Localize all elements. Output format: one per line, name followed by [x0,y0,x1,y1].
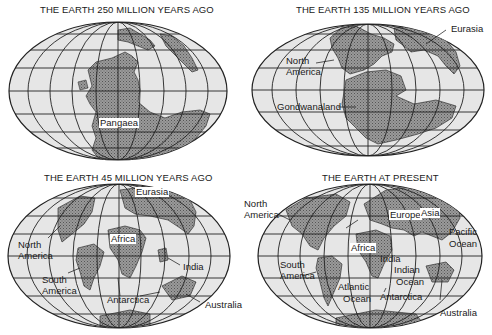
label-america: America [280,271,315,281]
label-eurasia: Eurasia [451,24,483,34]
map-panel-250-mya: THE EARTH 250 MILLION YEARS AGO [0,0,246,168]
label-america: America [18,251,53,261]
label-australia: Australia [205,300,242,310]
label-north: North [244,199,267,209]
label-atlantic: Atlantic [338,282,369,292]
label-europe: Europe [389,210,422,220]
map-panel-45-mya: THE EARTH 45 MILLION YEARS AGO [0,168,246,335]
label-ocean: Ocean [343,294,371,304]
label-america: America [286,67,321,77]
label-india: India [183,262,204,272]
label-eurasia: Eurasia [135,187,169,197]
label-gondwanaland: Gondwanaland [277,102,341,112]
label-north: North [18,240,41,250]
label-india: India [380,254,401,264]
label-south: South [280,260,305,270]
label-pacific: Pacific [449,227,477,237]
label-pangaea: Pangaea [99,118,139,128]
label-north: North [286,56,309,66]
map-panel-present: THE EARTH AT PRESENT [246,168,492,335]
map-panel-135-mya: THE EARTH 135 MILLION YEARS AGO [246,0,492,168]
label-south: South [42,275,67,285]
globe-map-250-mya [0,0,246,168]
label-america: America [42,286,77,296]
label-antarctica: Antarctica [107,295,149,305]
label-antarctica: Antarctica [380,292,422,302]
label-america: America [244,210,279,220]
label-ocean: Ocean [449,239,477,249]
label-indian: Indian [394,265,420,275]
label-africa: Africa [350,243,376,253]
label-ocean: Ocean [396,277,424,287]
label-asia: Asia [420,208,440,218]
label-africa: Africa [110,234,136,244]
label-australia: Australia [440,308,477,318]
